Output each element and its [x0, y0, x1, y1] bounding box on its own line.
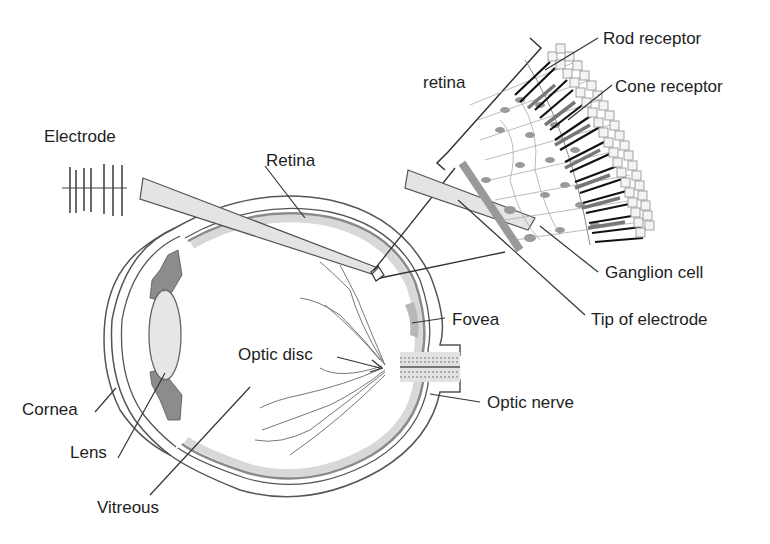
label-rod-receptor: Rod receptor	[603, 30, 701, 47]
label-lens: Lens	[70, 444, 107, 461]
label-ganglion-cell: Ganglion cell	[605, 264, 703, 281]
label-cornea: Cornea	[22, 401, 78, 418]
label-electrode: Electrode	[44, 128, 116, 145]
label-vitreous: Vitreous	[97, 499, 159, 516]
label-cone-receptor: Cone receptor	[615, 78, 723, 95]
eye-diagram: Electrode Retina retina Rod receptor Con…	[0, 0, 770, 544]
label-tip-of-electrode: Tip of electrode	[591, 311, 708, 328]
label-retina-inset: retina	[423, 74, 466, 91]
label-fovea: Fovea	[452, 311, 499, 328]
label-optic-nerve: Optic nerve	[487, 394, 574, 411]
label-retina: Retina	[266, 152, 315, 169]
label-optic-disc: Optic disc	[238, 346, 313, 363]
